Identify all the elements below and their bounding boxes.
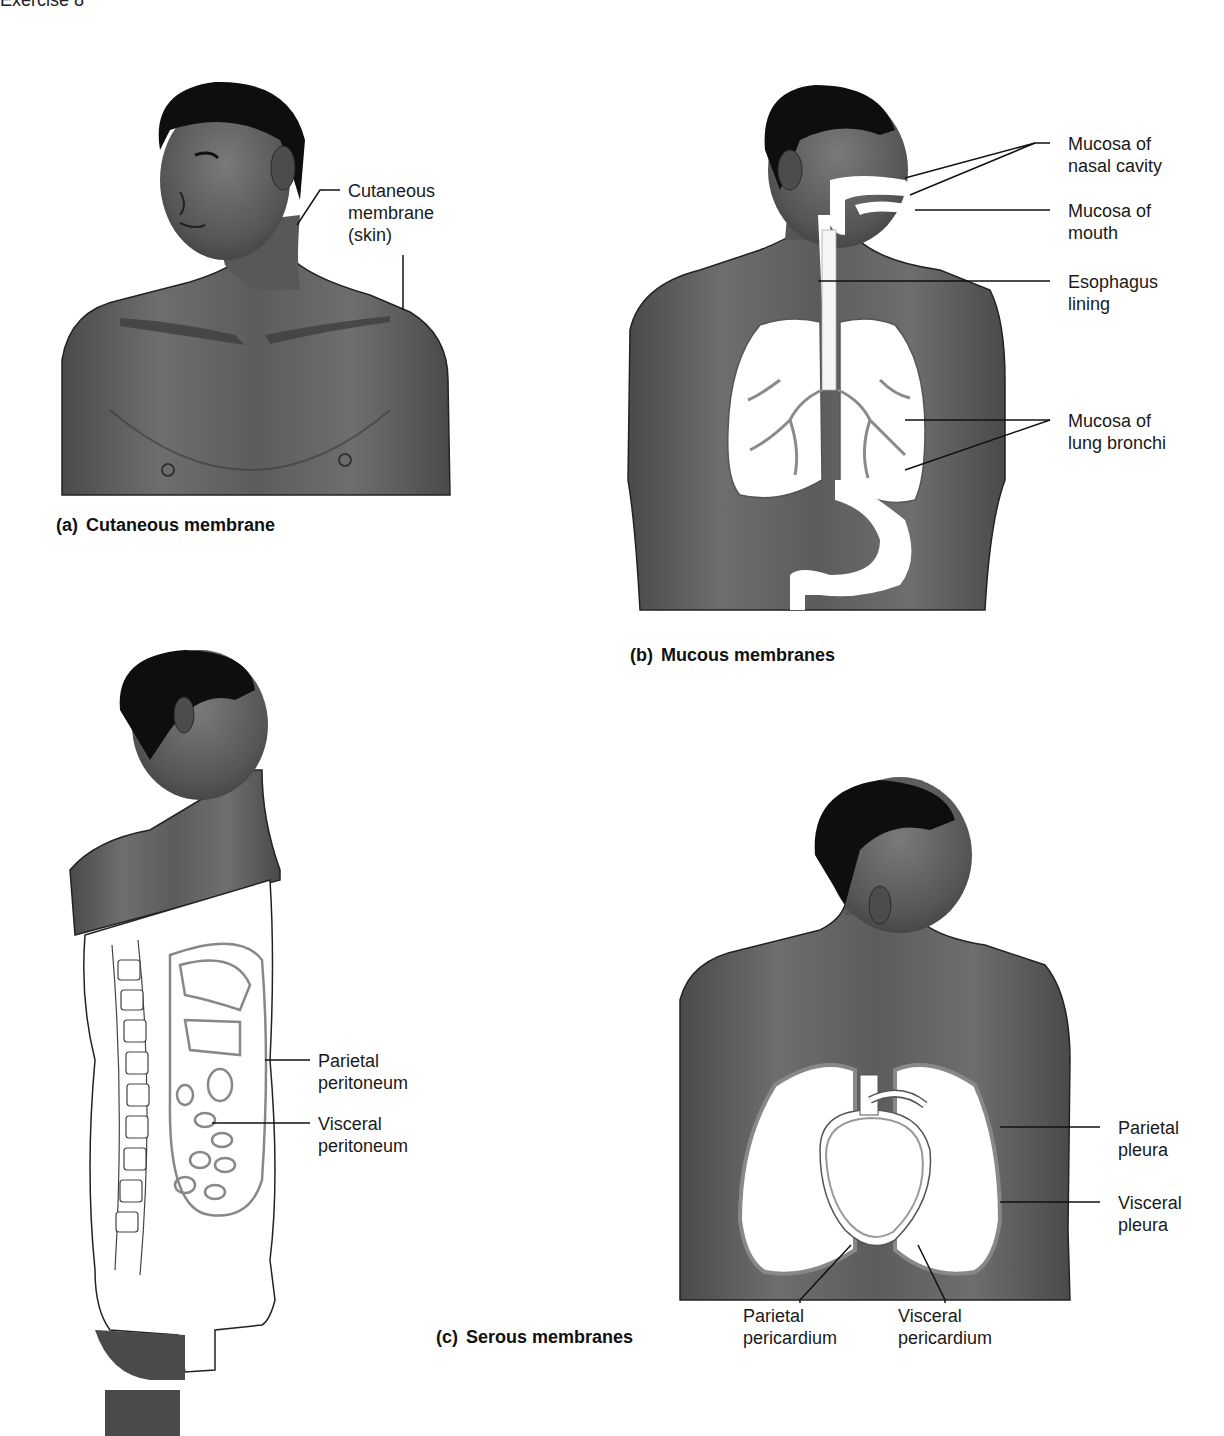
figure-cutaneous [0, 0, 1224, 1436]
caption-serous: (c)Serous membranes [436, 1327, 633, 1348]
caption-text-c: Serous membranes [466, 1327, 633, 1347]
caption-text-b: Mucous membranes [661, 645, 835, 665]
caption-mucous: (b)Mucous membranes [630, 645, 835, 666]
cutaneous-figure-body [62, 82, 450, 495]
label-esophagus-lining: Esophagus lining [1068, 271, 1158, 315]
caption-tag-a: (a) [56, 515, 78, 535]
caption-text-a: Cutaneous membrane [86, 515, 275, 535]
label-parietal-pericardium: Parietal pericardium [743, 1305, 837, 1349]
label-mucosa-nasal-cavity: Mucosa of nasal cavity [1068, 133, 1162, 177]
label-parietal-peritoneum: Parietal peritoneum [318, 1050, 408, 1094]
label-mucosa-mouth: Mucosa of mouth [1068, 200, 1151, 244]
label-visceral-pleura: Visceral pleura [1118, 1192, 1182, 1236]
serous-peritoneum-figure [70, 650, 280, 1436]
caption-tag-b: (b) [630, 645, 653, 665]
label-cutaneous-membrane: Cutaneous membrane (skin) [348, 180, 435, 246]
mucous-figure-body [628, 85, 1005, 610]
label-visceral-peritoneum: Visceral peritoneum [318, 1113, 408, 1157]
caption-tag-c: (c) [436, 1327, 458, 1347]
label-visceral-pericardium: Visceral pericardium [898, 1305, 992, 1349]
serous-pleura-figure [680, 777, 1070, 1300]
label-parietal-pleura: Parietal pleura [1118, 1117, 1179, 1161]
label-mucosa-lung-bronchi: Mucosa of lung bronchi [1068, 410, 1166, 454]
caption-cutaneous: (a)Cutaneous membrane [56, 515, 275, 536]
